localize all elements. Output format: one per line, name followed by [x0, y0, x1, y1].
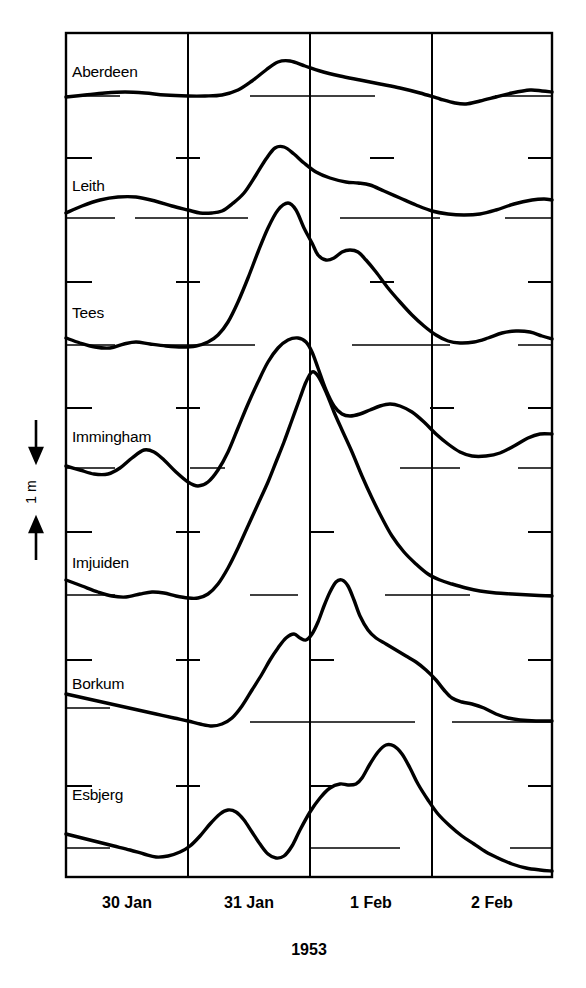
scale-up-arrow-head	[30, 518, 42, 532]
vertical-scale-indicator: 1 m	[23, 420, 42, 560]
station-label-aberdeen: Aberdeen	[72, 63, 138, 80]
x-tick-label-1: 31 Jan	[224, 894, 274, 911]
x-axis-tick-labels: 30 Jan31 Jan1 Feb2 Feb	[102, 894, 513, 911]
station-labels: AberdeenLeithTeesImminghamImjuidenBorkum…	[72, 63, 151, 803]
station-label-imjuiden: Imjuiden	[72, 554, 129, 571]
vertical-gridlines	[188, 33, 432, 877]
station-label-esbjerg: Esbjerg	[72, 786, 123, 803]
scale-down-arrow-head	[30, 448, 42, 462]
tide-gauge-figure: AberdeenLeithTeesImminghamImjuidenBorkum…	[0, 0, 586, 988]
scale-label: 1 m	[23, 480, 39, 503]
station-label-immingham: Immingham	[72, 428, 151, 445]
x-tick-label-3: 2 Feb	[471, 894, 513, 911]
x-tick-label-0: 30 Jan	[102, 894, 152, 911]
chart-canvas: AberdeenLeithTeesImminghamImjuidenBorkum…	[0, 0, 586, 988]
axis-title-year: 1953	[291, 941, 327, 958]
station-label-borkum: Borkum	[72, 675, 124, 692]
station-label-leith: Leith	[72, 177, 105, 194]
x-tick-label-2: 1 Feb	[350, 894, 392, 911]
station-label-tees: Tees	[72, 304, 104, 321]
